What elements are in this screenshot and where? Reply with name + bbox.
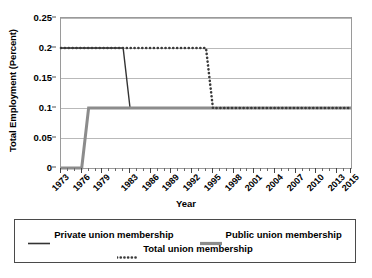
x-tick-label: 1992 xyxy=(181,172,202,193)
x-tick-label: 1995 xyxy=(202,172,223,193)
x-minor-tick xyxy=(198,168,199,171)
legend-entry[interactable]: Private union membership xyxy=(28,229,173,240)
x-minor-tick xyxy=(136,168,137,171)
x-tick-label: 2001 xyxy=(243,172,264,193)
x-minor-tick xyxy=(205,168,206,171)
y-tick-label: 0.1 xyxy=(39,102,52,113)
x-minor-tick xyxy=(226,168,227,171)
legend-row: Total union membership xyxy=(15,243,355,254)
x-minor-tick xyxy=(74,168,75,171)
x-tick-label: 1983 xyxy=(119,172,140,193)
x-axis-title-text: Year xyxy=(176,198,196,209)
legend-entry[interactable]: Public union membership xyxy=(200,229,342,240)
legend-swatch-total xyxy=(117,246,139,251)
x-tick-label: 1979 xyxy=(91,172,112,193)
x-tick-label: 1998 xyxy=(222,172,243,193)
legend-entry[interactable]: Total union membership xyxy=(117,243,253,254)
x-minor-tick xyxy=(267,168,268,171)
data-series-layer xyxy=(61,18,351,168)
legend-label: Private union membership xyxy=(54,229,173,240)
x-minor-tick xyxy=(288,168,289,171)
chart-legend: Private union membershipPublic union mem… xyxy=(14,219,356,263)
x-minor-tick xyxy=(143,168,144,171)
y-tick-label: 0.15 xyxy=(34,72,53,83)
legend-label: Public union membership xyxy=(226,229,342,240)
y-tick-mark xyxy=(52,137,56,138)
y-tick-label: 0.25 xyxy=(34,12,53,23)
legend-label: Total union membership xyxy=(143,243,253,254)
x-minor-tick xyxy=(88,168,89,171)
series-line xyxy=(61,108,351,168)
x-minor-tick xyxy=(219,168,220,171)
x-tick-label: 2007 xyxy=(285,172,306,193)
x-minor-tick xyxy=(329,168,330,171)
x-minor-tick xyxy=(122,168,123,171)
x-tick-label: 1973 xyxy=(50,172,71,193)
x-axis-tick-labels: 1973197619791983198619891992199519982001… xyxy=(0,172,372,200)
x-minor-tick xyxy=(302,168,303,171)
x-minor-tick xyxy=(184,168,185,171)
y-tick-mark xyxy=(52,47,56,48)
x-axis-title: Year xyxy=(0,198,372,209)
y-tick-mark xyxy=(52,107,56,108)
y-tick-mark xyxy=(52,77,56,78)
y-tick-mark xyxy=(52,167,56,168)
x-minor-tick xyxy=(67,168,68,171)
x-minor-tick xyxy=(115,168,116,171)
x-minor-tick xyxy=(260,168,261,171)
legend-row: Private union membershipPublic union mem… xyxy=(15,229,355,240)
y-tick-mark xyxy=(52,17,56,18)
x-minor-tick xyxy=(108,168,109,171)
x-tick-label: 2004 xyxy=(264,172,285,193)
x-minor-tick xyxy=(281,168,282,171)
y-axis-title-text: Total Employment (Percent) xyxy=(7,29,18,152)
x-minor-tick xyxy=(164,168,165,171)
x-minor-tick xyxy=(343,168,344,171)
y-axis-tick-labels: 00.050.10.150.20.25 xyxy=(22,10,56,172)
x-minor-tick xyxy=(309,168,310,171)
x-minor-tick xyxy=(177,168,178,171)
x-minor-tick xyxy=(240,168,241,171)
chart-figure: Total Employment (Percent) 00.050.10.150… xyxy=(0,0,372,278)
x-tick-label: 1976 xyxy=(71,172,92,193)
y-tick-label: 0.05 xyxy=(34,132,53,143)
x-minor-tick xyxy=(246,168,247,171)
x-tick-label: 1986 xyxy=(140,172,161,193)
x-minor-tick xyxy=(322,168,323,171)
y-axis-title: Total Employment (Percent) xyxy=(0,0,24,180)
series-line xyxy=(61,48,351,108)
legend-swatch-public xyxy=(200,232,222,237)
x-tick-label: 2010 xyxy=(305,172,326,193)
x-minor-tick xyxy=(157,168,158,171)
x-tick-label: 1989 xyxy=(160,172,181,193)
x-minor-tick xyxy=(95,168,96,171)
legend-swatch-private xyxy=(28,232,50,237)
series-line xyxy=(61,48,351,108)
plot-area xyxy=(60,17,352,169)
y-tick-label: 0.2 xyxy=(39,42,52,53)
